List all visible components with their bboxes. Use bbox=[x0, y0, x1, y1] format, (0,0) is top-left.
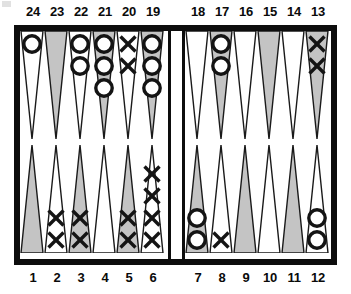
checker-o[interactable] bbox=[93, 77, 115, 99]
point-16[interactable] bbox=[233, 31, 257, 139]
checker-x[interactable] bbox=[141, 185, 163, 207]
point-1[interactable] bbox=[20, 145, 44, 253]
checker-x[interactable] bbox=[45, 229, 67, 251]
point-label-18: 18 bbox=[185, 4, 211, 20]
point-label-4: 4 bbox=[92, 270, 118, 286]
checker-stack-12[interactable] bbox=[305, 145, 329, 253]
checker-x[interactable] bbox=[117, 207, 139, 229]
checker-x[interactable] bbox=[210, 229, 232, 251]
checker-o[interactable] bbox=[141, 33, 163, 55]
point-18[interactable] bbox=[185, 31, 209, 139]
checker-o[interactable] bbox=[186, 207, 208, 229]
checker-x[interactable] bbox=[117, 33, 139, 55]
point-label-5: 5 bbox=[116, 270, 142, 286]
checker-o[interactable] bbox=[93, 33, 115, 55]
quadrant-top-left bbox=[20, 31, 168, 145]
checker-x[interactable] bbox=[141, 207, 163, 229]
point-label-12: 12 bbox=[305, 270, 331, 286]
point-label-7: 7 bbox=[185, 270, 211, 286]
point-label-3: 3 bbox=[68, 270, 94, 286]
checker-x[interactable] bbox=[141, 229, 163, 251]
checker-o[interactable] bbox=[306, 207, 328, 229]
point-label-15: 15 bbox=[257, 4, 283, 20]
checker-o[interactable] bbox=[141, 55, 163, 77]
checker-x[interactable] bbox=[306, 33, 328, 55]
checker-x[interactable] bbox=[69, 207, 91, 229]
point-label-19: 19 bbox=[140, 4, 166, 20]
point-4[interactable] bbox=[92, 145, 116, 253]
checker-o[interactable] bbox=[69, 55, 91, 77]
checker-stack-6[interactable] bbox=[140, 145, 164, 253]
backgammon-board: 242322212019181716151413 123456789101112 bbox=[0, 0, 351, 294]
bottom-point-labels: 123456789101112 bbox=[0, 270, 351, 288]
checker-stack-13[interactable] bbox=[305, 31, 329, 139]
checker-stack-8[interactable] bbox=[209, 145, 233, 253]
quadrant-top-right bbox=[185, 31, 333, 145]
playfield bbox=[20, 31, 331, 259]
center-bar[interactable] bbox=[168, 31, 185, 259]
checker-stack-20[interactable] bbox=[116, 31, 140, 139]
point-15[interactable] bbox=[257, 31, 281, 139]
checker-stack-24[interactable] bbox=[20, 31, 44, 139]
checker-o[interactable] bbox=[21, 33, 43, 55]
point-label-1: 1 bbox=[20, 270, 46, 286]
point-label-21: 21 bbox=[92, 4, 118, 20]
checker-x[interactable] bbox=[141, 163, 163, 185]
point-label-17: 17 bbox=[209, 4, 235, 20]
checker-x[interactable] bbox=[117, 55, 139, 77]
board-frame bbox=[14, 25, 337, 265]
point-9[interactable] bbox=[233, 145, 257, 253]
point-label-23: 23 bbox=[44, 4, 70, 20]
checker-stack-5[interactable] bbox=[116, 145, 140, 253]
checker-x[interactable] bbox=[45, 207, 67, 229]
top-point-labels: 242322212019181716151413 bbox=[0, 4, 351, 22]
checker-o[interactable] bbox=[186, 229, 208, 251]
checker-x[interactable] bbox=[306, 55, 328, 77]
point-label-14: 14 bbox=[281, 4, 307, 20]
checker-stack-17[interactable] bbox=[209, 31, 233, 139]
checker-o[interactable] bbox=[210, 55, 232, 77]
checker-stack-3[interactable] bbox=[68, 145, 92, 253]
point-label-2: 2 bbox=[44, 270, 70, 286]
point-label-24: 24 bbox=[20, 4, 46, 20]
checker-o[interactable] bbox=[69, 33, 91, 55]
checker-o[interactable] bbox=[306, 229, 328, 251]
checker-o[interactable] bbox=[210, 33, 232, 55]
checker-stack-21[interactable] bbox=[92, 31, 116, 139]
checker-stack-22[interactable] bbox=[68, 31, 92, 139]
checker-x[interactable] bbox=[117, 229, 139, 251]
checker-stack-19[interactable] bbox=[140, 31, 164, 139]
point-label-6: 6 bbox=[140, 270, 166, 286]
checker-o[interactable] bbox=[141, 77, 163, 99]
point-11[interactable] bbox=[281, 145, 305, 253]
point-label-8: 8 bbox=[209, 270, 235, 286]
point-label-11: 11 bbox=[281, 270, 307, 286]
point-label-20: 20 bbox=[116, 4, 142, 20]
checker-o[interactable] bbox=[93, 55, 115, 77]
point-14[interactable] bbox=[281, 31, 305, 139]
center-bar-inner bbox=[171, 31, 182, 259]
point-label-9: 9 bbox=[233, 270, 259, 286]
point-label-10: 10 bbox=[257, 270, 283, 286]
point-label-22: 22 bbox=[68, 4, 94, 20]
quadrant-bottom-left bbox=[20, 145, 168, 259]
checker-stack-7[interactable] bbox=[185, 145, 209, 253]
checker-x[interactable] bbox=[69, 229, 91, 251]
point-10[interactable] bbox=[257, 145, 281, 253]
point-label-16: 16 bbox=[233, 4, 259, 20]
point-label-13: 13 bbox=[305, 4, 331, 20]
quadrant-bottom-right bbox=[185, 145, 333, 259]
point-23[interactable] bbox=[44, 31, 68, 139]
checker-stack-2[interactable] bbox=[44, 145, 68, 253]
